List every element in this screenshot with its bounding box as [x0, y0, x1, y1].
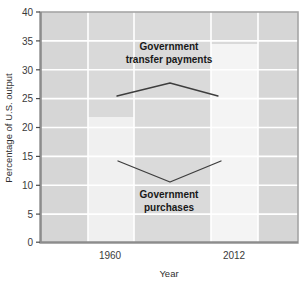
y-tick-labels: 40 35 30 25 20 15 10 5 0	[22, 7, 34, 248]
bar-2012	[211, 44, 258, 243]
x-tick-2012: 2012	[223, 250, 246, 261]
y-tick-15: 15	[22, 151, 34, 162]
government-spending-chart: 40 35 30 25 20 15 10 5 0 Percentage of U…	[0, 0, 305, 285]
bar-1960	[88, 117, 134, 243]
x-axis-title: Year	[159, 268, 178, 279]
y-axis-title: Percentage of U.S. output	[3, 73, 14, 183]
y-tick-0: 0	[27, 237, 33, 248]
y-tick-35: 35	[22, 36, 34, 47]
y-tick-30: 30	[22, 65, 34, 76]
annotation-purchases-line1: Government	[140, 189, 200, 200]
x-tick-1960: 1960	[99, 250, 122, 261]
y-tick-40: 40	[22, 7, 34, 18]
y-tick-5: 5	[27, 209, 33, 220]
annotation-transfer-line2: transfer payments	[126, 54, 213, 65]
annotation-purchases-line2: purchases	[144, 202, 194, 213]
y-tick-10: 10	[22, 180, 34, 191]
x-tick-labels: 1960 2012	[99, 250, 246, 261]
annotation-transfer-line1: Government	[140, 41, 200, 52]
y-tick-20: 20	[22, 122, 34, 133]
chart-figure: 40 35 30 25 20 15 10 5 0 Percentage of U…	[0, 0, 305, 285]
y-tick-25: 25	[22, 93, 34, 104]
